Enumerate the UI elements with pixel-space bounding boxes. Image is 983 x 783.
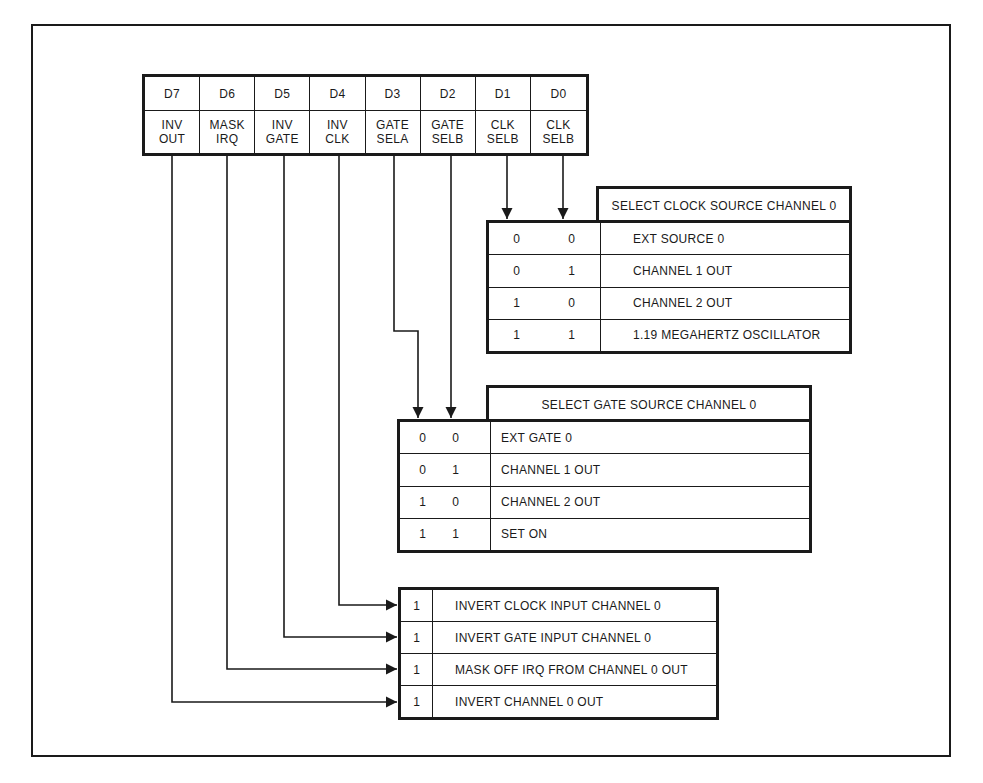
- table-row: 00 EXT SOURCE 0: [489, 223, 849, 255]
- row-description: EXT SOURCE 0: [601, 223, 849, 254]
- table-row: 10 CHANNEL 2 OUT: [489, 288, 849, 320]
- bit-label-d7: INVOUT: [145, 111, 200, 153]
- bit-label-d2: GATESELB: [421, 111, 476, 153]
- table-row: 1 MASK OFF IRQ FROM CHANNEL 0 OUT: [401, 654, 716, 686]
- bit-value: 0: [489, 223, 544, 254]
- bit-label-d3: GATESELA: [366, 111, 421, 153]
- row-description: INVERT CLOCK INPUT CHANNEL 0: [433, 590, 716, 621]
- clock-source-title: SELECT CLOCK SOURCE CHANNEL 0: [596, 186, 852, 222]
- bit-header-d1: D1: [476, 77, 531, 111]
- bit-value: 1: [403, 654, 431, 685]
- row-description: MASK OFF IRQ FROM CHANNEL 0 OUT: [433, 654, 716, 685]
- bit-label-d0: CLKSELB: [531, 111, 586, 153]
- row-description: CHANNEL 1 OUT: [601, 255, 849, 286]
- table-row: 11 1.19 MEGAHERTZ OSCILLATOR: [489, 320, 849, 351]
- table-row: 00 EXT GATE 0: [400, 422, 809, 454]
- row-description: CHANNEL 1 OUT: [491, 454, 809, 485]
- table-row: 01 CHANNEL 1 OUT: [489, 255, 849, 287]
- row-description: SET ON: [491, 519, 809, 550]
- gate-source-table: 00 EXT GATE 0 01 CHANNEL 1 OUT 10 CHANNE…: [397, 419, 812, 553]
- control-register-table: D7 D6 D5 D4 D3 D2 D1 D0 INVOUT MASKIRQ I…: [142, 74, 589, 156]
- table-row: 10 CHANNEL 2 OUT: [400, 487, 809, 519]
- bit-value: 0: [406, 454, 439, 485]
- bit-label-d4: INVCLK: [310, 111, 365, 153]
- bit-value: 1: [439, 519, 472, 550]
- table-row: 01 CHANNEL 1 OUT: [400, 454, 809, 486]
- bit-label-d5: INVGATE: [255, 111, 310, 153]
- bit-header-d0: D0: [531, 77, 586, 111]
- row-description: CHANNEL 2 OUT: [601, 288, 849, 319]
- bit-value: 1: [544, 255, 599, 286]
- bit-value: 0: [489, 255, 544, 286]
- bit-label-d6: MASKIRQ: [200, 111, 255, 153]
- table-row: 1 INVERT CLOCK INPUT CHANNEL 0: [401, 590, 716, 622]
- invert-options-table: 1 INVERT CLOCK INPUT CHANNEL 0 1 INVERT …: [398, 587, 719, 720]
- row-description: EXT GATE 0: [491, 422, 809, 453]
- bit-value: 0: [439, 422, 472, 453]
- row-description: 1.19 MEGAHERTZ OSCILLATOR: [601, 320, 849, 351]
- gate-source-title: SELECT GATE SOURCE CHANNEL 0: [486, 385, 812, 421]
- bit-value: 0: [439, 487, 472, 518]
- bit-header-d5: D5: [255, 77, 310, 111]
- bit-value: 1: [403, 590, 431, 621]
- row-description: CHANNEL 2 OUT: [491, 487, 809, 518]
- bit-value: 1: [406, 487, 439, 518]
- bit-value: 0: [544, 223, 599, 254]
- table-row: 1 INVERT GATE INPUT CHANNEL 0: [401, 622, 716, 654]
- row-description: INVERT CHANNEL 0 OUT: [433, 686, 716, 717]
- bit-header-d2: D2: [421, 77, 476, 111]
- table-row: 11 SET ON: [400, 519, 809, 550]
- bit-value: 1: [544, 320, 599, 351]
- bit-header-d6: D6: [200, 77, 255, 111]
- bit-value: 1: [406, 519, 439, 550]
- bit-label-d1: CLKSELB: [476, 111, 531, 153]
- bit-header-d7: D7: [145, 77, 200, 111]
- bit-header-d4: D4: [310, 77, 365, 111]
- bit-value: 0: [406, 422, 439, 453]
- bit-value: 1: [439, 454, 472, 485]
- clock-source-table: 00 EXT SOURCE 0 01 CHANNEL 1 OUT 10 CHAN…: [486, 220, 852, 354]
- bit-value: 1: [489, 320, 544, 351]
- bit-header-d3: D3: [366, 77, 421, 111]
- bit-value: 0: [544, 288, 599, 319]
- row-description: INVERT GATE INPUT CHANNEL 0: [433, 622, 716, 653]
- bit-value: 1: [489, 288, 544, 319]
- bit-value: 1: [403, 686, 431, 717]
- table-row: 1 INVERT CHANNEL 0 OUT: [401, 686, 716, 717]
- bit-value: 1: [403, 622, 431, 653]
